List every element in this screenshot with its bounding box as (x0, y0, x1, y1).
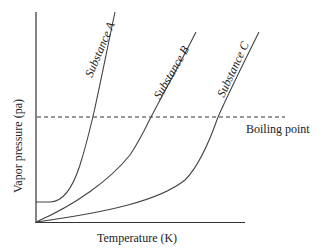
vapor-pressure-chart: Substance A Substance B Substance C Boil… (0, 0, 325, 252)
y-axis-label: Vapor pressure (pa) (11, 99, 25, 193)
substance-b-label: Substance B (150, 43, 192, 102)
x-axis-label: Temperature (K) (97, 231, 177, 245)
substance-a-label: Substance A (82, 19, 118, 79)
boiling-point-label: Boiling point (246, 122, 310, 136)
substance-c-label: Substance C (214, 38, 252, 99)
substance-c-curve (36, 32, 259, 222)
